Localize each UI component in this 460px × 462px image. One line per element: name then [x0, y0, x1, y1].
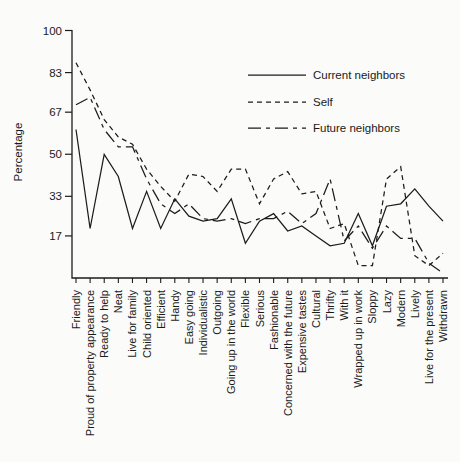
x-tick-label: Sloppy	[366, 290, 378, 324]
neighbor-adjectives-line-chart: 1733506783100PercentageFriendlyProud of …	[0, 0, 460, 462]
x-tick-label: Wrapped up in work	[352, 290, 364, 388]
figure-page: 1733506783100PercentageFriendlyProud of …	[0, 0, 460, 462]
legend-label-current-neighbors: Current neighbors	[313, 69, 405, 81]
x-tick-label: Child oriented	[141, 290, 153, 358]
x-tick-label: Flexible	[239, 290, 251, 328]
legend-label-future-neighbors: Future neighbors	[313, 122, 400, 134]
x-tick-label: Thrifty	[324, 290, 336, 321]
x-tick-label: Ready to help	[98, 290, 110, 358]
x-tick-label: Lazy	[381, 290, 393, 314]
x-tick-label: Expensive tastes	[296, 290, 308, 374]
x-tick-label: With it	[338, 290, 350, 321]
x-tick-label: Concerned with the future	[282, 290, 294, 416]
y-tick-label: 83	[49, 67, 62, 79]
x-tick-label: Fashionable	[268, 290, 280, 350]
axes	[72, 30, 448, 278]
x-tick-label: Efficient	[155, 290, 167, 329]
legend-label-self: Self	[313, 96, 334, 108]
y-tick-label: 50	[49, 148, 62, 160]
x-tick-label: Outgoing	[211, 290, 223, 335]
x-tick-label: Handy	[169, 290, 181, 322]
x-tick-label: Neat	[112, 290, 124, 313]
x-tick-label: Live for the present	[423, 290, 435, 384]
x-tick-label: Proud of property appearance	[84, 290, 96, 436]
x-tick-label: Individualistic	[197, 290, 209, 356]
x-tick-label: Cultural	[310, 290, 322, 328]
x-tick-label: Going up in the world	[225, 290, 237, 394]
x-tick-label: Withdrawn	[437, 290, 449, 342]
x-tick-label: Easy going	[183, 290, 195, 344]
x-tick-label: Live for family	[126, 290, 138, 358]
y-tick-label: 100	[43, 25, 62, 37]
y-axis-label: Percentage	[12, 123, 24, 182]
series-line-self	[76, 63, 443, 266]
x-tick-label: Modern	[395, 290, 407, 327]
y-tick-label: 17	[49, 230, 62, 242]
x-tick-label: Serious	[254, 290, 266, 328]
x-tick-label: Lively	[409, 290, 421, 319]
y-tick-label: 33	[49, 190, 62, 202]
x-tick-label: Friendly	[70, 290, 82, 330]
y-tick-label: 67	[49, 106, 62, 118]
chart-svg: 1733506783100PercentageFriendlyProud of …	[0, 0, 460, 462]
